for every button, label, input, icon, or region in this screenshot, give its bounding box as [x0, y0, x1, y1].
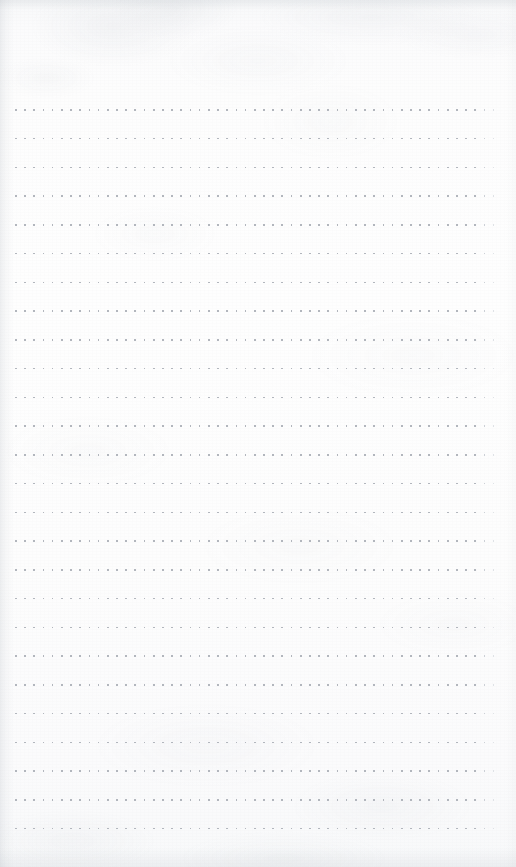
notebook-page	[0, 0, 516, 867]
right-edge-shadow	[506, 0, 516, 867]
paper-grain-overlay	[0, 0, 516, 867]
bottom-margin-area	[0, 830, 516, 867]
top-margin-area	[0, 0, 516, 109]
left-binding-shadow	[0, 0, 14, 867]
